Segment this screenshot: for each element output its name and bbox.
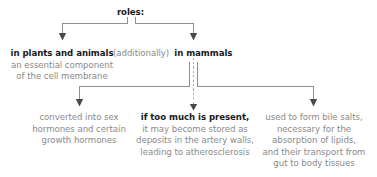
cholesterol-roles-diagram: roles: in plants and animals an essentia… <box>0 0 377 177</box>
node-sex-hormones-line-2: hormones and certain <box>13 124 145 136</box>
node-sex-hormones-line-3: growth hormones <box>13 135 145 147</box>
arrowhead-col1 <box>76 99 83 107</box>
arrowhead-col2 <box>190 104 197 111</box>
node-plants-body-line-2: of the cell membrane <box>0 71 142 83</box>
node-bile-salts-line-2: necessary for the <box>252 124 376 136</box>
node-sex-hormones: converted into sex hormones and certain … <box>13 112 145 147</box>
node-sex-hormones-line-1: converted into sex <box>13 112 145 124</box>
node-bile-salts-line-3: absorption of lipids, <box>252 135 376 147</box>
branch-bar-left <box>63 24 128 34</box>
level2-bar-left <box>80 87 190 100</box>
arrowhead-plants <box>59 33 66 41</box>
node-bile-salts: used to form bile salts, necessary for t… <box>252 112 376 170</box>
node-mammals-heading: in mammals <box>174 48 232 58</box>
node-atherosclerosis: if too much is present, it may become st… <box>133 112 257 158</box>
node-mammals: (additionally) in mammals <box>113 45 273 60</box>
node-roles: roles: <box>0 4 377 19</box>
node-atherosclerosis-line-1: it may become stored as <box>133 124 257 136</box>
branch-bar-right <box>136 24 194 34</box>
node-bile-salts-line-4: and their transport from <box>252 147 376 159</box>
node-bile-salts-line-1: used to form bile salts, <box>252 112 376 124</box>
roles-label: roles: <box>117 7 144 17</box>
node-mammals-prefix: (additionally) <box>113 48 169 58</box>
node-plants-heading: in plants and animals <box>11 48 114 58</box>
node-atherosclerosis-line-2: deposits in the artery walls, <box>133 135 257 147</box>
node-plants-body-line-1: an essential component <box>0 60 142 72</box>
arrowhead-mammals <box>190 33 197 41</box>
level2-bar-right <box>198 87 314 100</box>
node-atherosclerosis-heading: if too much is present, <box>133 112 257 124</box>
node-atherosclerosis-line-3: leading to atherosclerosis <box>133 147 257 159</box>
arrowhead-col3 <box>310 99 317 107</box>
node-bile-salts-line-5: gut to body tissues <box>252 158 376 170</box>
